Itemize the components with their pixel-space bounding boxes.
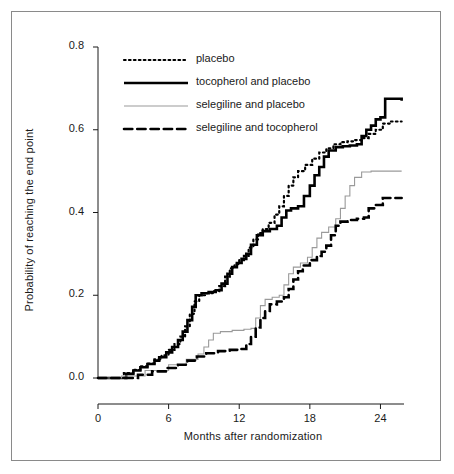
x-tick-label: 18 [295, 412, 325, 424]
chart-series [98, 99, 402, 378]
y-tick-label: 0.4 [50, 205, 84, 217]
x-tick-label: 24 [365, 412, 395, 424]
legend-label: placebo [196, 52, 235, 64]
x-tick-label: 6 [154, 412, 184, 424]
legend-label: selegiline and tocopherol [196, 121, 318, 133]
series-line [98, 171, 402, 378]
x-axis-title: Months after randomization [98, 430, 408, 442]
y-tick-label: 0.8 [50, 39, 84, 51]
series-line [98, 198, 402, 378]
x-tick-label: 12 [224, 412, 254, 424]
legend-label: tocopherol and placebo [196, 75, 310, 87]
legend-label: selegiline and placebo [196, 98, 305, 110]
y-tick-label: 0.0 [50, 370, 84, 382]
legend-swatches [124, 60, 188, 129]
y-tick-label: 0.2 [50, 287, 84, 299]
y-tick-label: 0.6 [50, 122, 84, 134]
survival-curve-chart [0, 0, 454, 474]
y-axis-title: Probability of reaching the end point [23, 105, 35, 335]
x-tick-label: 0 [83, 412, 113, 424]
